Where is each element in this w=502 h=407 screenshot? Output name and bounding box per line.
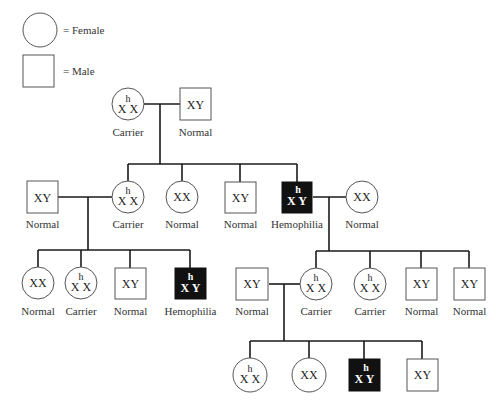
status-label: Normal	[405, 305, 439, 317]
individual-III-2: h X X Carrier	[65, 267, 97, 317]
genotype: X X	[360, 281, 381, 295]
legend: = Female = Male	[23, 13, 104, 87]
individual-II-3: XY Normal	[224, 182, 258, 230]
individual-II-spouse-4: XX Normal	[345, 181, 379, 230]
individual-III-6: h X X Carrier	[354, 268, 386, 317]
status-label: Normal	[26, 218, 60, 230]
status-label: Carrier	[112, 218, 143, 230]
genotype: XY	[243, 277, 261, 291]
status-label: Normal	[235, 305, 269, 317]
genotype: X X	[240, 372, 261, 386]
genotype: XY	[34, 191, 52, 205]
individual-II-spouse-1: XY Normal	[26, 181, 60, 230]
genotype: XX	[300, 368, 318, 382]
status-label: Carrier	[300, 305, 331, 317]
individual-III-5: h X X Carrier	[300, 268, 332, 317]
individual-IV-2: XX	[292, 358, 326, 392]
status-label: Carrier	[354, 305, 385, 317]
individual-IV-3: h X Y	[349, 359, 380, 391]
status-label: Normal	[165, 218, 199, 230]
status-label: Hemophilia	[165, 305, 217, 317]
legend-female-symbol	[23, 13, 57, 47]
genotype: X X	[71, 280, 92, 294]
genotype: XY	[414, 368, 432, 382]
pedigree-lines	[38, 104, 469, 359]
genotype: XY	[413, 277, 431, 291]
legend-male-symbol	[23, 55, 54, 87]
status-label: Normal	[21, 305, 55, 317]
genotype: X Y	[181, 281, 201, 295]
genotype: XX	[353, 190, 371, 204]
individual-III-4: h X Y Hemophilia	[165, 268, 217, 317]
individual-III-3: XY Normal	[114, 268, 148, 317]
genotype: X Y	[287, 194, 307, 208]
status-label: Normal	[453, 305, 487, 317]
individual-III-7: XY Normal	[405, 268, 439, 317]
status-label: Hemophilia	[271, 218, 323, 230]
legend-female-label: = Female	[63, 24, 104, 36]
genotype: XY	[232, 191, 250, 205]
genotype: X X	[118, 102, 139, 116]
genotype: XX	[29, 276, 47, 290]
genotype: X Y	[355, 372, 375, 386]
status-label: Normal	[345, 218, 379, 230]
genotype: X X	[306, 281, 327, 295]
legend-male-label: = Male	[63, 65, 95, 77]
individual-IV-4: XY	[407, 359, 438, 391]
individual-IV-1: h X X	[233, 358, 267, 392]
individual-III-spouse-5: XY Normal	[235, 268, 269, 317]
genotype: XY	[461, 277, 479, 291]
individual-II-4: h X Y Hemophilia	[271, 182, 323, 230]
individual-III-1: XX Normal	[21, 267, 55, 317]
genotype: XY	[122, 277, 140, 291]
individual-I-1: h X X Carrier	[112, 88, 144, 138]
individual-I-2: XY Normal	[179, 88, 213, 138]
status-label: Carrier	[65, 305, 96, 317]
individual-III-8: XY Normal	[453, 268, 487, 317]
status-label: Normal	[114, 305, 148, 317]
individual-II-2: XX Normal	[165, 181, 199, 230]
status-label: Carrier	[112, 126, 143, 138]
pedigree-chart: = Female = Male	[0, 0, 502, 407]
genotype: X X	[118, 194, 139, 208]
status-label: Normal	[224, 218, 258, 230]
status-label: Normal	[179, 126, 213, 138]
genotype: XY	[187, 98, 205, 112]
individual-II-1: h X X Carrier	[112, 181, 144, 230]
genotype: XX	[173, 190, 191, 204]
